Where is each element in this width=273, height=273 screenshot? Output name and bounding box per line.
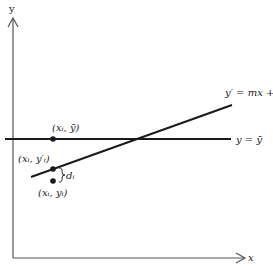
observed-point-label: (xᵢ, yᵢ): [38, 187, 68, 198]
regression-diagram: y x y = ȳ y′ = mx + b (xᵢ, ȳ) (xᵢ, y′ᵢ): [0, 0, 273, 273]
fitted-point-label: (xᵢ, y′ᵢ): [18, 153, 50, 164]
regression-line-label: y′ = mx + b: [224, 87, 273, 98]
deviation-bracket: dᵢ: [59, 168, 74, 182]
brace-icon: [59, 168, 65, 182]
fitted-point: (xᵢ, y′ᵢ): [18, 153, 56, 172]
observed-point: (xᵢ, yᵢ): [38, 178, 68, 198]
y-axis-label: y: [8, 3, 15, 14]
x-axis-label: x: [248, 252, 254, 263]
x-axis: x: [13, 252, 254, 263]
mean-line-label: y = ȳ: [235, 134, 262, 145]
deviation-label: dᵢ: [66, 170, 74, 181]
y-axis: y: [8, 3, 18, 258]
mean-point-label: (xᵢ, ȳ): [52, 122, 80, 133]
